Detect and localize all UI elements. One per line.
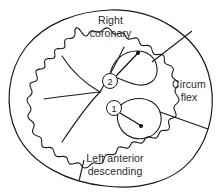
- label-left-anterior-descending: Left anterior descending: [40, 152, 190, 177]
- marker-1-target-dot: [139, 124, 143, 128]
- label-right-coronary-line2: coronary: [0, 27, 221, 40]
- label-circumflex: Circum flex: [160, 78, 218, 103]
- coronary-territory-diagram: 2 1 Right coronary Circum flex Left ante…: [0, 0, 221, 195]
- leader-line-marker-1: [120, 113, 140, 125]
- label-right-coronary: Right coronary: [0, 14, 221, 39]
- vessel-branch-lower-left: [62, 92, 100, 142]
- vessel-branch-upper-left: [62, 56, 100, 92]
- label-lad-line2: descending: [40, 165, 190, 178]
- label-lad-line1: Left anterior: [40, 152, 190, 165]
- vessel-branch-left: [44, 92, 100, 99]
- marker-2-target-dot: [136, 51, 140, 55]
- divider-lower-right: [160, 112, 208, 129]
- label-circumflex-line1: Circum: [160, 78, 218, 91]
- label-circumflex-line2: flex: [160, 91, 218, 104]
- label-right-coronary-line1: Right: [0, 14, 221, 27]
- marker-1-number: 1: [111, 104, 116, 114]
- chamber-lobe-lower: [117, 99, 161, 139]
- marker-2-number: 2: [107, 77, 112, 87]
